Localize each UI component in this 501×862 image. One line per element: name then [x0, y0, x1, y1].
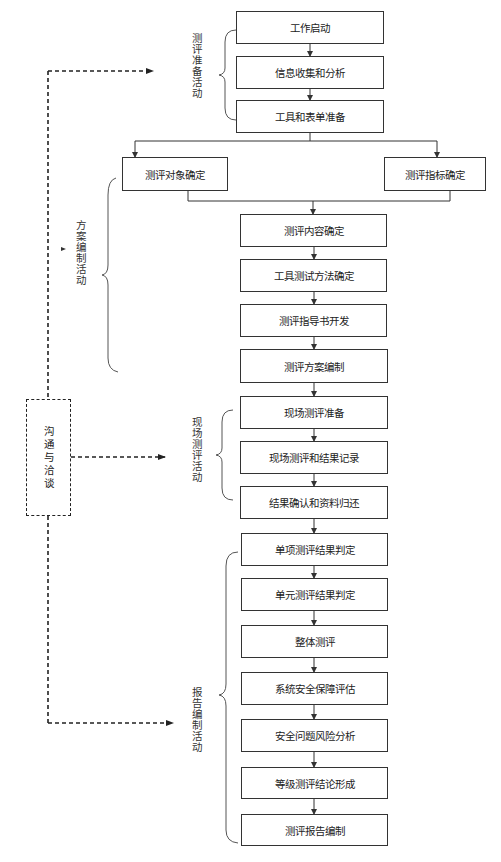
step-info-collection: 信息收集和分析	[236, 56, 384, 89]
flowchart-canvas: 测评准备活动 方案编制活动 现场测评活动 报告编制活动 沟通与洽谈 工作启动 信…	[0, 0, 501, 862]
step-tool-test-method: 工具测试方法确定	[240, 259, 387, 292]
step-security-assurance: 系统安全保障评估	[241, 672, 388, 705]
step-unit-judgment: 单元测评结果判定	[241, 578, 388, 611]
phase-label-report: 报告编制活动	[190, 687, 204, 753]
step-tool-form-prep: 工具和表单准备	[236, 100, 384, 133]
step-guide-development: 测评指导书开发	[240, 304, 387, 337]
step-onsite-record: 现场测评和结果记录	[240, 441, 388, 474]
step-conclusion-formation: 等级测评结论形成	[241, 767, 388, 799]
step-plan-compilation: 测评方案编制	[240, 349, 388, 383]
brace-group	[102, 30, 238, 843]
communication-box: 沟通与洽谈	[26, 399, 71, 516]
phase-label-plan: 方案编制活动	[74, 220, 88, 286]
phase-label-field: 现场测评活动	[190, 417, 204, 483]
step-target-determination: 测评对象确定	[122, 157, 228, 191]
step-risk-analysis: 安全问题风险分析	[241, 719, 388, 752]
step-work-start: 工作启动	[236, 11, 384, 44]
step-indicator-determination: 测评指标确定	[384, 157, 486, 191]
step-content-determination: 测评内容确定	[240, 214, 387, 247]
step-single-item-judgment: 单项测评结果判定	[241, 533, 388, 566]
step-onsite-prep: 现场测评准备	[240, 396, 388, 429]
phase-label-prep: 测评准备活动	[190, 33, 204, 99]
communication-label: 沟通与洽谈	[43, 425, 55, 490]
small-arrow-mark	[61, 247, 66, 251]
step-overall-evaluation: 整体测评	[241, 625, 388, 658]
step-report-compilation: 测评报告编制	[241, 814, 388, 846]
step-result-confirm: 结果确认和资料归还	[240, 486, 388, 519]
